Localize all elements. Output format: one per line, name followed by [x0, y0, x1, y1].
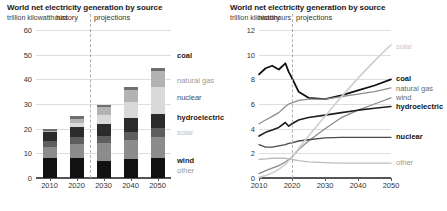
bar-segment-hydroelectric — [43, 132, 57, 140]
bar-segment-solar — [70, 123, 84, 127]
left-legend-coal: coal — [177, 52, 192, 60]
right-history-label: history — [258, 13, 280, 22]
bar-segment-other — [43, 129, 57, 131]
bar-segment-nuclear — [97, 136, 111, 143]
right-y-tick-label: 4 — [251, 124, 255, 133]
left-projections-label: projections — [94, 13, 130, 22]
right-y-tick-label: 12 — [247, 26, 255, 35]
left-y-tick-label: 30 — [24, 100, 32, 109]
left-legend-natural-gas: natural gas — [177, 77, 214, 85]
bar-segment-wind — [124, 90, 138, 102]
bar-segment-coal — [124, 159, 138, 178]
bar-segment-natural-gas — [151, 137, 165, 159]
left-legend-other: other — [177, 167, 194, 175]
right-x-tick-label: 2050 — [383, 181, 400, 190]
left-x-tick-label: 2020 — [68, 181, 85, 190]
panel-line-chart: World net electricity generation by sour… — [223, 0, 447, 211]
left-x-tick-label: 2010 — [41, 181, 58, 190]
line-coal — [259, 63, 391, 99]
bar-segment-natural-gas — [70, 144, 84, 158]
left-legend-wind: wind — [177, 157, 194, 165]
left-x-tick-label: 2040 — [122, 181, 139, 190]
left-legend-nuclear: nuclear — [177, 94, 202, 102]
right-legend-wind: wind — [396, 94, 411, 102]
bar-segment-natural-gas — [97, 143, 111, 160]
right-history-projection-divider — [292, 14, 293, 178]
bar-segment-coal — [97, 161, 111, 178]
bar-segment-hydroelectric — [97, 124, 111, 136]
bar-segment-hydroelectric — [124, 118, 138, 131]
right-y-tick-label: 8 — [251, 75, 255, 84]
line-other — [259, 158, 391, 163]
left-legend-solar: solar — [177, 129, 193, 137]
right-legend-natural-gas: natural gas — [396, 85, 433, 93]
bar-segment-solar — [151, 87, 165, 114]
bar-segment-natural-gas — [124, 140, 138, 160]
line-solar — [259, 45, 391, 178]
bar-segment-solar — [97, 115, 111, 124]
right-x-tick-label: 2040 — [350, 181, 367, 190]
bar-segment-other — [70, 116, 84, 118]
bar-segment-natural-gas — [43, 147, 57, 158]
bar-segment-wind — [97, 107, 111, 114]
left-chart-title: World net electricity generation by sour… — [7, 3, 162, 12]
bar-segment-nuclear — [43, 141, 57, 148]
bar-segment-coal — [151, 158, 165, 178]
right-chart-title: World net electricity generation by sour… — [230, 3, 385, 12]
panel-stacked-bar-chart: World net electricity generation by sour… — [0, 0, 223, 211]
bar-segment-solar — [124, 102, 138, 118]
right-plot-area: 02468101220102020203020402050historyproj… — [259, 30, 391, 178]
bar-segment-wind — [70, 119, 84, 123]
bar-segment-hydroelectric — [151, 114, 165, 128]
right-y-tick-label: 2 — [251, 149, 255, 158]
right-y-tick-label: 10 — [247, 50, 255, 59]
left-x-tick-label: 2030 — [95, 181, 112, 190]
right-line-series-group — [259, 30, 391, 178]
bar-segment-other — [151, 68, 165, 71]
left-y-tick-label: 60 — [24, 26, 32, 35]
right-legend-coal: coal — [396, 76, 411, 84]
left-plot-area: 010203040506020102020203020402050history… — [36, 30, 171, 178]
bar-segment-other — [124, 87, 138, 90]
left-y-tick-label: 0 — [28, 174, 32, 183]
bar-segment-coal — [70, 158, 84, 178]
right-y-tick-label: 6 — [251, 100, 255, 109]
bar-segment-nuclear — [124, 132, 138, 140]
left-y-tick-label: 10 — [24, 149, 32, 158]
line-hydroelectric — [259, 106, 391, 136]
right-x-tick-label: 2020 — [284, 181, 301, 190]
bar-segment-wind — [151, 71, 165, 87]
bar-segment-hydroelectric — [70, 127, 84, 137]
right-legend-nuclear: nuclear — [396, 134, 423, 142]
left-y-tick-label: 40 — [24, 75, 32, 84]
bar-segment-other — [97, 105, 111, 108]
right-legend-hydroelectric: hydroelectric — [396, 103, 443, 111]
left-history-label: history — [56, 13, 78, 22]
left-y-tick-label: 50 — [24, 50, 32, 59]
left-x-tick-label: 2050 — [149, 181, 166, 190]
right-legend-other: other — [396, 159, 413, 167]
line-nuclear — [259, 137, 391, 147]
bar-segment-wind — [43, 131, 57, 132]
right-legend-solar: solar — [396, 44, 412, 52]
right-x-tick-label: 2030 — [317, 181, 334, 190]
figure-two-panel-charts: World net electricity generation by sour… — [0, 0, 447, 211]
bar-segment-coal — [43, 158, 57, 178]
left-history-projection-divider — [90, 14, 91, 178]
right-projections-label: projections — [296, 13, 332, 22]
left-legend-hydroelectric: hydroelectric — [177, 114, 224, 122]
bar-segment-nuclear — [70, 137, 84, 144]
left-y-tick-label: 20 — [24, 124, 32, 133]
right-x-tick-label: 2010 — [251, 181, 268, 190]
bar-segment-nuclear — [151, 128, 165, 136]
